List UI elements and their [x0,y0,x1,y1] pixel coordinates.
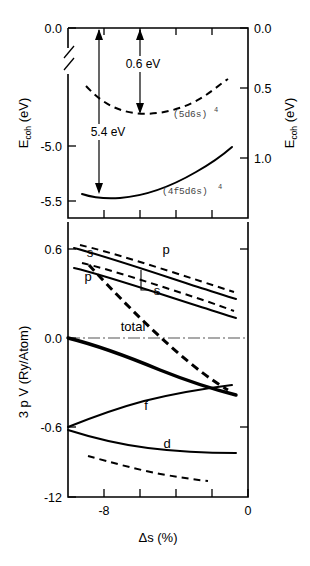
bottom-ytick-neg06: -0.6 [40,421,62,435]
xtick-0: 0 [245,504,252,518]
bottom-ytick-00: 0.0 [45,332,62,346]
bottom-ytick-neg12: -12 [44,491,62,505]
top-right-ytick-10: 1.0 [254,152,271,166]
bottom-ytick-06: 0.6 [45,243,62,257]
top-ylabel-right-main: E [282,139,297,148]
xtick-neg8: -8 [98,504,109,518]
annotation-text-5-4ev: 5.4 eV [91,125,126,139]
top-ytick-0: 0.0 [45,22,62,36]
label-s-leader: s [154,283,161,298]
label-total: total [121,319,146,334]
svg-text:Ecoh (eV): Ecoh (eV) [16,98,33,149]
svg-text:Ecoh (eV): Ecoh (eV) [282,98,299,149]
axis-break-icon [63,46,74,74]
top-ylabel-left-main: E [16,139,31,148]
config-label-4f5d6s-sup: 4 [218,183,222,191]
config-label-4f5d6s-text: (4f5d6s) [162,186,208,197]
x-axis-label: Δs (%) [138,530,177,545]
top-ylabel-left-unit: (eV) [16,98,31,126]
label-p-upper: p [162,242,169,257]
label-d: d [163,436,170,451]
annotation-text-0-6ev: 0.6 eV [126,57,161,71]
top-ytick-neg5: -5.0 [40,140,62,154]
physics-figure-svg: 0.0 -5.0 -5.5 0.0 0.5 1.0 [0,0,310,566]
top-ylabel-left: Ecoh (eV) [16,98,33,149]
bottom-ylabel: 3 p V (Ry/Atom) [16,326,31,418]
config-label-5d6s-text: (5d6s) [173,109,207,120]
label-s-left: s [87,245,94,260]
top-ytick-neg55: -5.5 [40,195,62,209]
label-p-left: p [84,269,91,284]
top-ylabel-right-unit: (eV) [282,98,297,126]
config-label-5d6s-sup: 4 [214,106,218,114]
top-ylabel-right-sub: coh [289,126,299,140]
top-ylabel-left-sub: coh [23,126,33,140]
top-ylabel-right: Ecoh (eV) [282,98,299,149]
top-right-ytick-00: 0.0 [254,22,271,36]
label-f: f [144,398,148,413]
figure-container: 0.0 -5.0 -5.5 0.0 0.5 1.0 [0,0,310,566]
bottom-ylabel-text: 3 p V (Ry/Atom) [16,326,31,418]
top-right-ytick-05: 0.5 [254,82,271,96]
